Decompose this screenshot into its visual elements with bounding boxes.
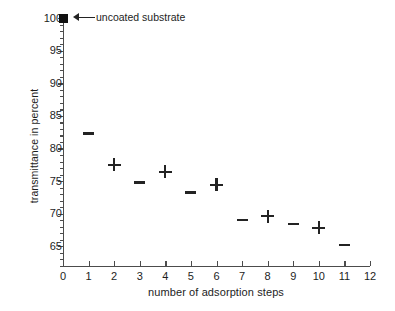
y-tick-minor xyxy=(60,155,64,156)
data-point-dash xyxy=(339,244,350,247)
y-tick-label: 65 xyxy=(22,241,62,252)
data-point-dash xyxy=(83,132,94,135)
data-point-square xyxy=(59,14,68,23)
y-tick-minor xyxy=(60,227,64,228)
y-tick-label: 90 xyxy=(22,78,62,89)
y-tick-minor xyxy=(60,31,64,32)
chart-figure: transmittance in percent number of adsor… xyxy=(0,0,395,311)
plot-area: 65707580859095100 0123456789101112 xyxy=(63,15,370,267)
y-tick-minor xyxy=(60,129,64,130)
x-tick-major xyxy=(191,261,192,267)
y-tick-minor xyxy=(60,96,64,97)
x-tick-major xyxy=(89,261,90,267)
annotation-uncoated-substrate: uncoated substrate xyxy=(73,11,185,23)
y-tick-label: 75 xyxy=(22,176,62,187)
x-tick-major xyxy=(268,261,269,267)
y-tick-label: 95 xyxy=(22,45,62,56)
data-point-dash xyxy=(237,219,248,222)
x-tick-label: 12 xyxy=(355,271,385,282)
y-tick-minor xyxy=(60,57,64,58)
data-point-dash xyxy=(134,181,145,184)
x-tick-major xyxy=(165,261,166,267)
x-tick-major xyxy=(242,261,243,267)
x-tick-major xyxy=(344,261,345,267)
y-tick-minor xyxy=(60,168,64,169)
x-tick-major xyxy=(140,261,141,267)
data-point-dash xyxy=(185,191,196,194)
x-axis-line xyxy=(63,266,370,267)
x-tick-major xyxy=(217,261,218,267)
x-tick-major xyxy=(114,261,115,267)
y-tick-minor xyxy=(60,122,64,123)
x-tick-major xyxy=(319,261,320,267)
data-point-dash xyxy=(288,223,299,226)
x-axis-title: number of adsorption steps xyxy=(60,286,372,298)
arrow-left-icon xyxy=(73,13,95,22)
y-tick-minor xyxy=(60,201,64,202)
y-tick-minor xyxy=(60,103,64,104)
y-tick-minor xyxy=(60,25,64,26)
y-tick-minor xyxy=(60,188,64,189)
y-tick-label: 70 xyxy=(22,208,62,219)
y-tick-minor xyxy=(60,135,64,136)
annotation-label: uncoated substrate xyxy=(96,12,185,23)
x-tick-major xyxy=(63,261,64,267)
y-tick-label: 85 xyxy=(22,110,62,121)
y-tick-minor xyxy=(60,70,64,71)
y-tick-minor xyxy=(60,64,64,65)
y-tick-minor xyxy=(60,220,64,221)
y-tick-minor xyxy=(60,38,64,39)
x-tick-major xyxy=(293,261,294,267)
y-tick-label: 100 xyxy=(22,13,62,24)
y-tick-minor xyxy=(60,90,64,91)
y-tick-label: 80 xyxy=(22,143,62,154)
x-tick-major xyxy=(370,261,371,267)
y-tick-minor xyxy=(60,162,64,163)
y-tick-minor xyxy=(60,233,64,234)
y-tick-minor xyxy=(60,253,64,254)
y-tick-minor xyxy=(60,194,64,195)
